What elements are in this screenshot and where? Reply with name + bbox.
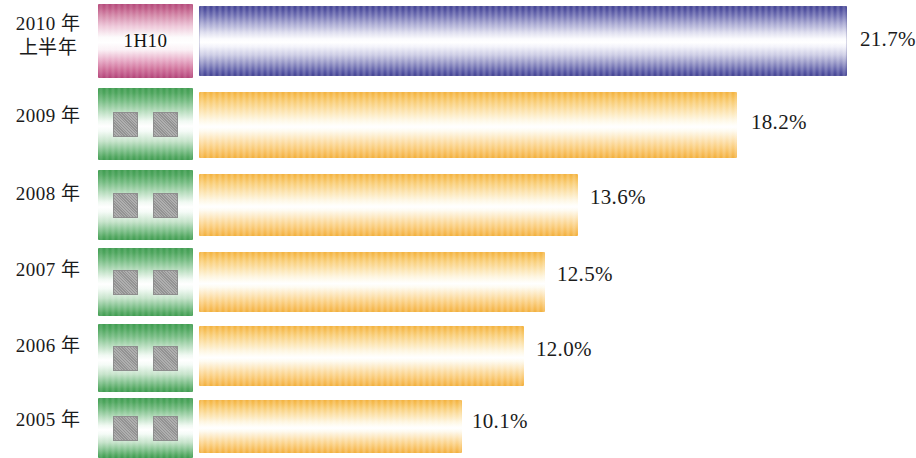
bar-value-label: 18.2% xyxy=(751,110,807,135)
redacted-block-icon xyxy=(153,112,178,137)
year-axis-label: 2007 年 xyxy=(0,258,96,282)
year-axis-label: 2009 年 xyxy=(0,104,96,128)
redacted-block-icon xyxy=(113,270,138,295)
redacted-block-icon xyxy=(153,270,178,295)
row-key-box xyxy=(98,324,193,392)
redacted-block-icon xyxy=(113,112,138,137)
redacted-block-icon xyxy=(153,416,178,441)
data-bar xyxy=(199,400,462,453)
year-axis-label: 2006 年 xyxy=(0,334,96,358)
row-key-box xyxy=(98,248,193,316)
bar-value-label: 12.0% xyxy=(536,337,592,362)
data-bar xyxy=(199,252,545,312)
bar-value-label: 13.6% xyxy=(590,185,646,210)
row-key-box xyxy=(98,170,193,240)
row-key-blocks xyxy=(113,416,178,441)
row-key-box xyxy=(98,398,193,458)
year-axis-label: 2005 年 xyxy=(0,408,96,432)
redacted-block-icon xyxy=(113,416,138,441)
row-key-text: 1H10 xyxy=(123,30,167,52)
bar-value-label: 21.7% xyxy=(860,27,916,52)
redacted-block-icon xyxy=(113,346,138,371)
data-bar xyxy=(199,92,737,158)
data-bar xyxy=(199,326,524,386)
year-axis-label: 2010 年 上半年 xyxy=(0,12,96,61)
row-key-box: 1H10 xyxy=(98,4,193,78)
row-key-blocks xyxy=(113,270,178,295)
row-key-box xyxy=(98,88,193,160)
redacted-block-icon xyxy=(113,193,138,218)
year-axis-label: 2008 年 xyxy=(0,182,96,206)
row-key-blocks xyxy=(113,112,178,137)
bar-value-label: 10.1% xyxy=(472,409,528,434)
row-key-blocks xyxy=(113,193,178,218)
redacted-block-icon xyxy=(153,346,178,371)
data-bar xyxy=(199,174,578,236)
data-bar xyxy=(199,6,847,76)
row-key-blocks xyxy=(113,346,178,371)
bar-value-label: 12.5% xyxy=(557,262,613,287)
redacted-block-icon xyxy=(153,193,178,218)
